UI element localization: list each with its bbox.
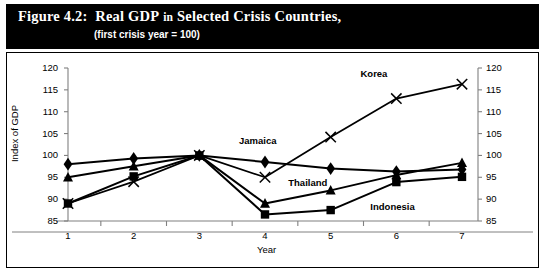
- x-tick-label: 2: [114, 230, 154, 241]
- y-tick-label-right: 85: [486, 215, 497, 226]
- y-tick-label-left: 90: [22, 193, 58, 204]
- y-tick-label-left: 120: [22, 62, 58, 73]
- y-tick-label-right: 115: [486, 84, 501, 95]
- y-tick-label-right: 95: [486, 171, 497, 182]
- series-label-korea: Korea: [360, 68, 387, 79]
- chart-axes: [12, 68, 533, 232]
- y-tick-label-right: 100: [486, 149, 502, 160]
- series-label-thailand: Thailand: [288, 177, 327, 188]
- y-tick-label-right: 105: [486, 128, 502, 139]
- y-tick-label-left: 110: [22, 106, 58, 117]
- y-axis-label-left: Index of GDP: [9, 105, 20, 162]
- x-tick-label: 6: [376, 230, 416, 241]
- y-tick-label-left: 85: [22, 215, 58, 226]
- y-tick-label-left: 100: [22, 149, 58, 160]
- y-tick-label-left: 95: [22, 171, 58, 182]
- x-tick-label: 7: [442, 230, 482, 241]
- y-tick-label-left: 115: [22, 84, 58, 95]
- series-label-indonesia: Indonesia: [370, 201, 414, 212]
- x-tick-label: 5: [311, 230, 351, 241]
- figure-container: Figure 4.2: Real GDP in Selected Crisis …: [0, 0, 545, 273]
- y-tick-label-right: 90: [486, 193, 497, 204]
- y-tick-label-left: 105: [22, 128, 58, 139]
- y-tick-label-right: 120: [486, 62, 502, 73]
- series-label-jamaica: Jamaica: [239, 135, 277, 146]
- x-tick-label: 3: [179, 230, 219, 241]
- x-axis-label: Year: [257, 244, 276, 255]
- chart-series: [63, 79, 467, 219]
- x-tick-label: 4: [245, 230, 285, 241]
- x-tick-label: 1: [48, 230, 88, 241]
- y-tick-label-right: 110: [486, 106, 501, 117]
